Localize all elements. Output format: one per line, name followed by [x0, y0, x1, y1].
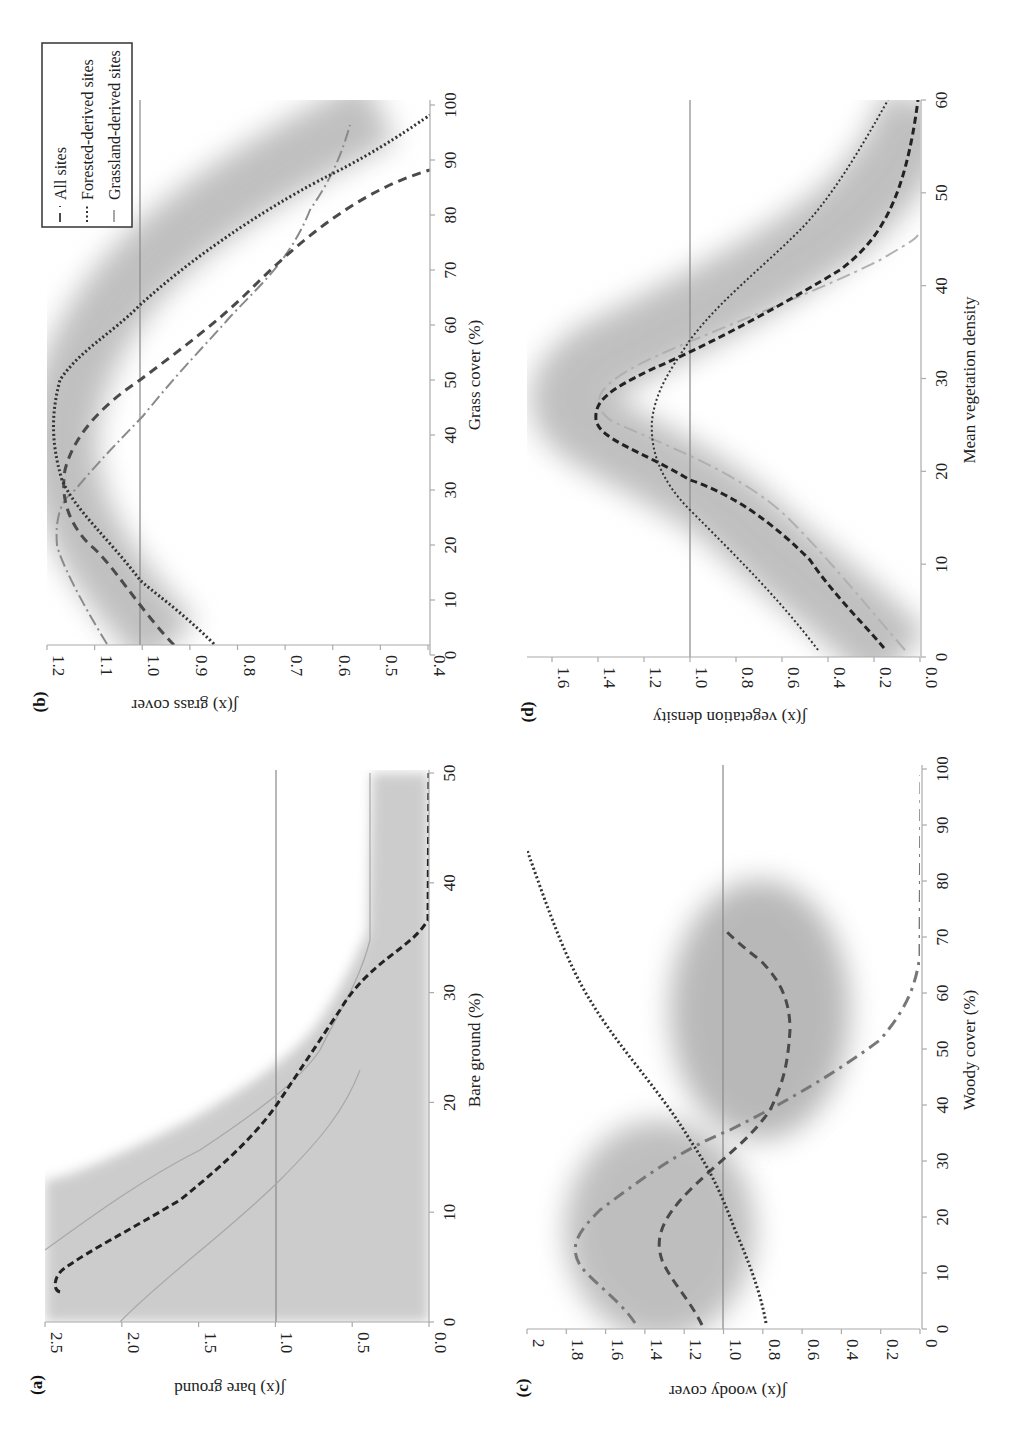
b-fticks-label: 0.9 [192, 655, 211, 676]
panel-b-label: (b) [30, 692, 49, 713]
a-fticks-label: 2.5 [47, 1332, 66, 1353]
b-fticks-label: 0.8 [240, 655, 259, 676]
b-fticks-label: 0.7 [287, 655, 306, 677]
panel-b-xlabel: Grass cover (%) [465, 320, 484, 430]
b-fticks-label: 1.0 [144, 655, 163, 676]
c-fticks-label: 1.8 [568, 1339, 587, 1360]
c-fticks-label: 0 [922, 1339, 941, 1348]
c-xticks-label: 80 [933, 873, 952, 890]
d-xticks-label: 30 [932, 370, 951, 387]
legend-label-all-sites: All sites [52, 147, 69, 200]
c-fticks-label: 1.0 [726, 1339, 745, 1360]
d-xticks-label: 10 [932, 556, 951, 573]
panel-d-plot-area [570, 90, 920, 660]
d-fticks-label: 1.4 [600, 667, 619, 689]
b-fticks-label: 1.1 [97, 655, 116, 676]
c-fticks-label: 1.2 [686, 1339, 705, 1360]
panel-c-f-ticks: 21.81.61.41.21.00.80.60.40.20 [527, 1329, 941, 1361]
d-fticks-label: 0.0 [922, 667, 941, 688]
c-xticks-label: 30 [933, 1153, 952, 1170]
a-xticks-label: 50 [440, 765, 459, 782]
c-xticks-label: 40 [933, 1097, 952, 1114]
a-fticks-label: 0.5 [354, 1332, 373, 1353]
panel-a-ylabel: ʃ(x) bare ground [174, 1379, 287, 1398]
b-xticks-label: 60 [441, 317, 460, 334]
b-xticks-label: 10 [441, 592, 460, 609]
d-fticks-label: 0.4 [830, 667, 849, 689]
d-fticks-label: 0.8 [738, 667, 757, 688]
panel-b: 1.21.11.00.90.80.70.60.50.4 010203040506… [30, 43, 484, 715]
panel-a-confidence-band [45, 773, 429, 1322]
b-xticks-label: 20 [441, 537, 460, 554]
panel-a-xlabel: Bare ground (%) [465, 993, 484, 1107]
a-xticks-label: 30 [440, 984, 459, 1001]
panel-b-x-ticks: 0102030405060708090100 [430, 92, 460, 659]
panel-c-xlabel: Woody cover (%) [960, 990, 979, 1110]
legend-item-grassland: Grassland-derived sites [106, 50, 123, 222]
c-fticks-label: 0.4 [843, 1339, 862, 1361]
legend: All sites Forested-derived sites Grassla… [42, 43, 132, 227]
b-fticks-label: 1.2 [49, 655, 68, 676]
d-fticks-label: 1.2 [646, 667, 665, 688]
panel-b-ylabel: ʃ(x) grass cover [131, 696, 239, 715]
d-fticks-label: 0.6 [784, 667, 803, 688]
d-xticks-label: 20 [932, 463, 951, 480]
a-fticks-label: 2.0 [124, 1332, 143, 1353]
panel-d-x-ticks: 0102030405060 [921, 92, 951, 662]
d-xticks-label: 50 [932, 184, 951, 201]
b-xticks-label: 90 [441, 152, 460, 169]
c-xticks-label: 70 [933, 929, 952, 946]
b-xticks-label: 30 [441, 482, 460, 499]
b-xticks-label: 50 [441, 372, 460, 389]
a-fticks-label: 1.0 [277, 1332, 296, 1353]
panel-d-confidence-band [570, 100, 920, 660]
a-fticks-label: 0.0 [431, 1332, 450, 1353]
a-xticks-label: 40 [440, 874, 459, 891]
c-xticks-label: 50 [933, 1041, 952, 1058]
b-xticks-label: 70 [441, 262, 460, 279]
b-xticks-label: 0 [441, 651, 460, 660]
panel-d-xlabel: Mean vegetation density [960, 296, 979, 464]
panel-c-confidence-band-upper [670, 880, 850, 1140]
panel-d: 1.61.41.21.00.80.60.40.20.0 010203040506… [518, 90, 979, 727]
c-xticks-label: 100 [933, 756, 952, 782]
legend-label-grassland: Grassland-derived sites [106, 50, 123, 200]
b-xticks-label: 40 [441, 427, 460, 444]
c-fticks-label: 0.8 [765, 1339, 784, 1360]
panel-c-ylabel: ʃ(x) woody cover [669, 1382, 788, 1401]
a-fticks-label: 1.5 [201, 1332, 220, 1353]
panel-c-label: (c) [513, 1379, 532, 1398]
panel-a-f-ticks: 2.52.01.51.00.50.0 [45, 1322, 450, 1353]
panel-c: 21.81.61.41.21.00.80.60.40.20 0102030405… [513, 756, 979, 1401]
a-xticks-label: 10 [440, 1204, 459, 1221]
c-fticks-label: 2 [529, 1339, 548, 1348]
b-xticks-label: 100 [441, 92, 460, 118]
panel-a-x-ticks: 01020304050 [429, 765, 459, 1327]
c-fticks-label: 1.6 [608, 1339, 627, 1360]
b-fticks-label: 0.5 [382, 655, 401, 676]
c-xticks-label: 60 [933, 985, 952, 1002]
panel-d-f-ticks: 1.61.41.21.00.80.60.40.20.0 [552, 657, 941, 689]
panel-c-x-ticks: 0102030405060708090100 [922, 756, 952, 1333]
figure-canvas: 1.21.11.00.90.80.70.60.50.4 010203040506… [0, 0, 1021, 1449]
legend-item-forested: Forested-derived sites [79, 59, 96, 222]
panel-d-label: (d) [518, 702, 537, 723]
d-fticks-label: 1.0 [692, 667, 711, 688]
c-xticks-label: 90 [933, 817, 952, 834]
c-xticks-label: 20 [933, 1209, 952, 1226]
c-xticks-label: 0 [933, 1325, 952, 1334]
panel-b-f-ticks: 1.21.11.00.90.80.70.60.50.4 [47, 645, 449, 677]
panel-a: 2.52.01.51.00.50.0 01020304050 ʃ(x) bare… [27, 765, 484, 1399]
a-xticks-label: 0 [440, 1318, 459, 1327]
d-fticks-label: 1.6 [554, 667, 573, 688]
panel-c-plot-area [527, 760, 921, 1340]
panel-a-plot-area [45, 765, 429, 1330]
legend-label-forested: Forested-derived sites [79, 59, 96, 200]
c-fticks-label: 0.2 [883, 1339, 902, 1360]
d-xticks-label: 60 [932, 92, 951, 109]
b-xticks-label: 80 [441, 207, 460, 224]
d-fticks-label: 0.2 [876, 667, 895, 688]
c-fticks-label: 1.4 [647, 1339, 666, 1361]
panel-a-label: (a) [27, 1375, 46, 1395]
c-fticks-label: 0.6 [804, 1339, 823, 1360]
